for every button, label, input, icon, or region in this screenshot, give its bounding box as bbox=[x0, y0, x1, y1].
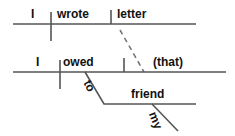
word-verb-owed: owed bbox=[63, 56, 94, 68]
word-verb-wrote: wrote bbox=[57, 8, 89, 20]
sentence-diagram-canvas: I wrote letter I owed (that) to friend m… bbox=[0, 0, 235, 136]
word-subject-i-main: I bbox=[31, 8, 34, 20]
word-object-letter: letter bbox=[117, 8, 146, 20]
word-subject-i-relative: I bbox=[36, 56, 39, 68]
word-object-that: (that) bbox=[153, 56, 183, 68]
word-object-friend: friend bbox=[131, 88, 164, 100]
